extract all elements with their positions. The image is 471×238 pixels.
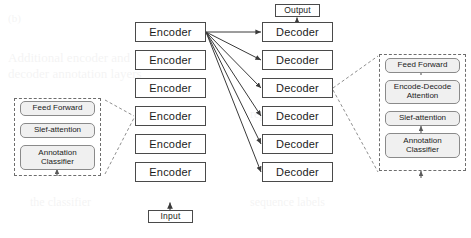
decoder-detail-block-self-attention[interactable]: Slef-attention: [385, 111, 460, 126]
decoder-node-6-label: Decoder: [276, 167, 319, 178]
decoder-detail-block-feed-forward[interactable]: Feed Forward: [385, 58, 460, 73]
encoder-node-6-label: Encoder: [149, 167, 191, 178]
svg-text:Additional encoder and: Additional encoder and: [8, 50, 131, 65]
encoder-node-6[interactable]: Encoder: [135, 162, 206, 182]
decoder-node-6[interactable]: Decoder: [262, 162, 333, 182]
encoder-detail-block-self-attention[interactable]: Slef-attention: [20, 123, 95, 138]
decoder-detail-block-encode-decode-attention-label: Encode-Decode Attention: [394, 83, 451, 101]
encoder-node-2[interactable]: Encoder: [135, 50, 206, 70]
decoder-detail-block-annotation-classifier-label: Annotation Classifier: [403, 137, 441, 155]
encoder-node-4[interactable]: Encoder: [135, 106, 206, 126]
encoder-detail-block-self-attention-label: Slef-attention: [34, 126, 81, 135]
encoder-detail-block-annotation-classifier-label: Annotation Classifier: [38, 149, 76, 167]
encoder-detail-block-feed-forward[interactable]: Feed Forward: [20, 101, 95, 116]
decoder-node-2-label: Decoder: [276, 55, 319, 66]
encoder-node-4-label: Encoder: [149, 111, 191, 122]
svg-text:sequence labels: sequence labels: [250, 195, 325, 209]
svg-text:the classifier: the classifier: [30, 195, 91, 209]
diagram-canvas: (b) Additional encoder and decoder annot…: [0, 0, 471, 238]
decoder-node-4-label: Decoder: [276, 111, 319, 122]
encoder-node-5-label: Encoder: [149, 139, 191, 150]
encoder-detail-block-feed-forward-label: Feed Forward: [33, 104, 83, 113]
decoder-detail-block-self-attention-label: Slef-attention: [399, 114, 446, 123]
decoder-node-1-label: Decoder: [276, 27, 319, 38]
svg-text:(b): (b): [8, 12, 21, 25]
decoder-node-5[interactable]: Decoder: [262, 134, 333, 154]
decoder-detail-block-feed-forward-label: Feed Forward: [398, 61, 448, 70]
decoder-node-3-label: Decoder: [276, 83, 319, 94]
decoder-detail-block-annotation-classifier[interactable]: Annotation Classifier: [385, 133, 460, 158]
output-node-label: Output: [284, 6, 311, 15]
input-node[interactable]: Input: [148, 210, 193, 223]
decoder-node-5-label: Decoder: [276, 139, 319, 150]
encoder-node-5[interactable]: Encoder: [135, 134, 206, 154]
encoder-node-1[interactable]: Encoder: [135, 22, 206, 42]
encoder-node-2-label: Encoder: [149, 55, 191, 66]
encoder-node-1-label: Encoder: [149, 27, 191, 38]
decoder-detail-block-encode-decode-attention[interactable]: Encode-Decode Attention: [385, 80, 460, 104]
input-node-label: Input: [161, 212, 181, 221]
encoder-detail-block-annotation-classifier[interactable]: Annotation Classifier: [20, 145, 95, 170]
decoder-node-2[interactable]: Decoder: [262, 50, 333, 70]
decoder-node-1[interactable]: Decoder: [262, 22, 333, 42]
decoder-node-4[interactable]: Decoder: [262, 106, 333, 126]
encoder-node-3[interactable]: Encoder: [135, 78, 206, 98]
svg-text:decoder annotation layers: decoder annotation layers: [8, 66, 142, 81]
decoder-node-3[interactable]: Decoder: [262, 78, 333, 98]
encoder-node-3-label: Encoder: [149, 83, 191, 94]
output-node[interactable]: Output: [275, 4, 320, 17]
